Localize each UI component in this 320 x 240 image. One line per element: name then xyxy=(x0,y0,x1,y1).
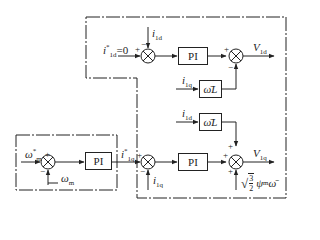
pi-controller-d: PI xyxy=(178,47,208,65)
label-v1d: V1d xyxy=(253,42,267,56)
label-i1d-to-wl: i1d xyxy=(182,108,192,122)
sign-vq-plus-left: + xyxy=(223,151,228,160)
omega-l-block-bottom: ω̄L xyxy=(199,113,222,131)
label-v1q: V1q xyxy=(253,148,267,162)
label-i1d-ref: i*1d=0 xyxy=(103,44,128,59)
sign-d-plus: + xyxy=(135,45,140,54)
sign-speed-minus: − xyxy=(40,167,45,176)
label-feedforward: √ 3 2 ψmω̄ xyxy=(241,173,276,193)
label-omega-feedback: ωm xyxy=(61,173,74,187)
sign-d-minus: − xyxy=(141,40,146,49)
sign-q-plus: + xyxy=(137,151,142,160)
label-i1d-feedback: i1d xyxy=(152,28,162,42)
sign-vq-plus-bottom: + xyxy=(228,167,233,176)
label-i1q-feedback: i1q xyxy=(153,175,163,189)
sign-vq-plus-top: + xyxy=(228,142,233,151)
sign-vd-minus: − xyxy=(228,63,233,72)
label-omega-ref: ω*m xyxy=(25,148,42,163)
label-i1q-ref: i*1q xyxy=(121,148,135,163)
pi-controller-speed: PI xyxy=(85,152,112,170)
label-i1q-to-wl: i1q xyxy=(182,75,192,89)
sign-q-minus: − xyxy=(140,167,145,176)
pi-controller-q: PI xyxy=(178,153,208,171)
sign-vd-plus: + xyxy=(224,45,229,54)
omega-l-block-top: ω̄L xyxy=(199,80,222,98)
sign-speed-plus: + xyxy=(45,150,50,159)
